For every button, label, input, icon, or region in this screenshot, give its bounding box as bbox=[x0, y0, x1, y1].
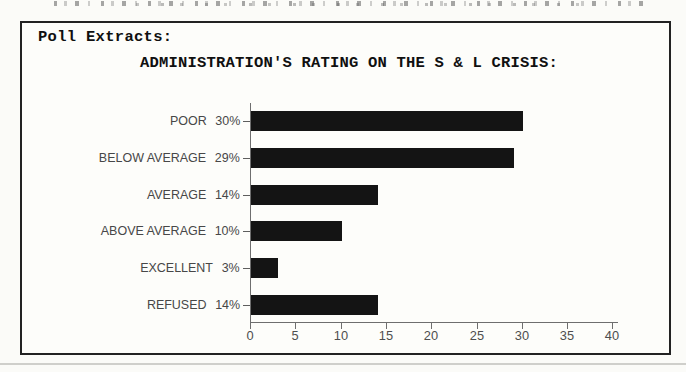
x-tick-label-15: 15 bbox=[372, 328, 401, 343]
category-text: REFUSED bbox=[147, 297, 207, 312]
x-axis-line bbox=[250, 322, 618, 323]
category-tick-average bbox=[243, 195, 250, 196]
value-text: 30% bbox=[215, 113, 240, 128]
x-tick-label-10: 10 bbox=[326, 328, 355, 343]
x-tick-label-25: 25 bbox=[462, 328, 491, 343]
x-tick-label-0: 0 bbox=[236, 328, 265, 343]
bar-label-poor: POOR30% bbox=[170, 113, 240, 129]
category-tick-poor bbox=[243, 121, 250, 122]
category-tick-excellent bbox=[243, 268, 250, 269]
category-text: POOR bbox=[170, 113, 207, 128]
bar-excellent bbox=[251, 258, 278, 278]
bar-label-below-average: BELOW AVERAGE29% bbox=[99, 150, 240, 166]
bar-below-average bbox=[251, 148, 514, 168]
scanned-page: Poll Extracts: ADMINISTRATION'S RATING O… bbox=[0, 0, 686, 372]
value-text: 10% bbox=[215, 223, 240, 238]
category-text: AVERAGE bbox=[147, 187, 206, 202]
category-tick-refused bbox=[243, 305, 250, 306]
x-tick-label-5: 5 bbox=[281, 328, 310, 343]
x-tick-label-30: 30 bbox=[508, 328, 537, 343]
value-text: 29% bbox=[215, 150, 240, 165]
scan-artifact-line bbox=[0, 363, 686, 365]
value-text: 14% bbox=[215, 297, 240, 312]
bar-refused bbox=[251, 295, 378, 315]
value-text: 3% bbox=[222, 260, 240, 275]
bar-chart: POOR30%BELOW AVERAGE29%AVERAGE14%ABOVE A… bbox=[0, 0, 686, 372]
x-tick-label-35: 35 bbox=[553, 328, 582, 343]
bar-label-refused: REFUSED14% bbox=[147, 297, 240, 313]
bar-label-average: AVERAGE14% bbox=[147, 187, 240, 203]
category-text: ABOVE AVERAGE bbox=[101, 223, 206, 238]
category-tick-above-average bbox=[243, 231, 250, 232]
category-tick-below-average bbox=[243, 158, 250, 159]
bar-label-above-average: ABOVE AVERAGE10% bbox=[101, 223, 240, 239]
category-text: BELOW AVERAGE bbox=[99, 150, 206, 165]
bar-label-excellent: EXCELLENT3% bbox=[140, 260, 240, 276]
bar-average bbox=[251, 185, 378, 205]
bar-above-average bbox=[251, 221, 342, 241]
category-text: EXCELLENT bbox=[140, 260, 213, 275]
x-tick-label-40: 40 bbox=[598, 328, 627, 343]
x-tick-label-20: 20 bbox=[417, 328, 446, 343]
value-text: 14% bbox=[215, 187, 240, 202]
bar-poor bbox=[251, 111, 523, 131]
y-axis-line bbox=[250, 103, 251, 323]
